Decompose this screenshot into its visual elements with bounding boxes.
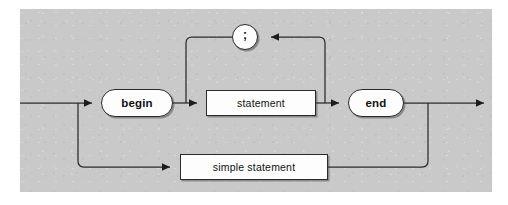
node-semicolon: ; — [232, 24, 258, 50]
node-end: end — [348, 89, 404, 117]
node-statement: statement — [206, 90, 316, 116]
node-statement-label: statement — [237, 97, 285, 109]
node-simple-statement: simple statement — [180, 154, 328, 180]
node-semicolon-label: ; — [243, 29, 247, 41]
node-begin: begin — [101, 89, 173, 117]
node-simple-statement-label: simple statement — [213, 161, 296, 173]
syntax-diagram: begin statement end ; simple statement — [0, 0, 508, 205]
node-end-label: end — [365, 97, 386, 109]
node-begin-label: begin — [121, 97, 153, 109]
